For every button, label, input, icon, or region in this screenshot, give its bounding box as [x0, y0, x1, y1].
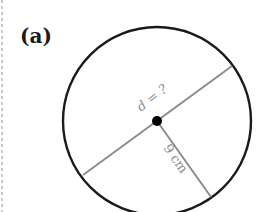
radius-label: 9 cm: [161, 141, 192, 176]
center-point: [152, 116, 162, 126]
circle-diagram: d = ? 9 cm: [0, 0, 266, 212]
diameter-label: d = ?: [134, 81, 171, 115]
